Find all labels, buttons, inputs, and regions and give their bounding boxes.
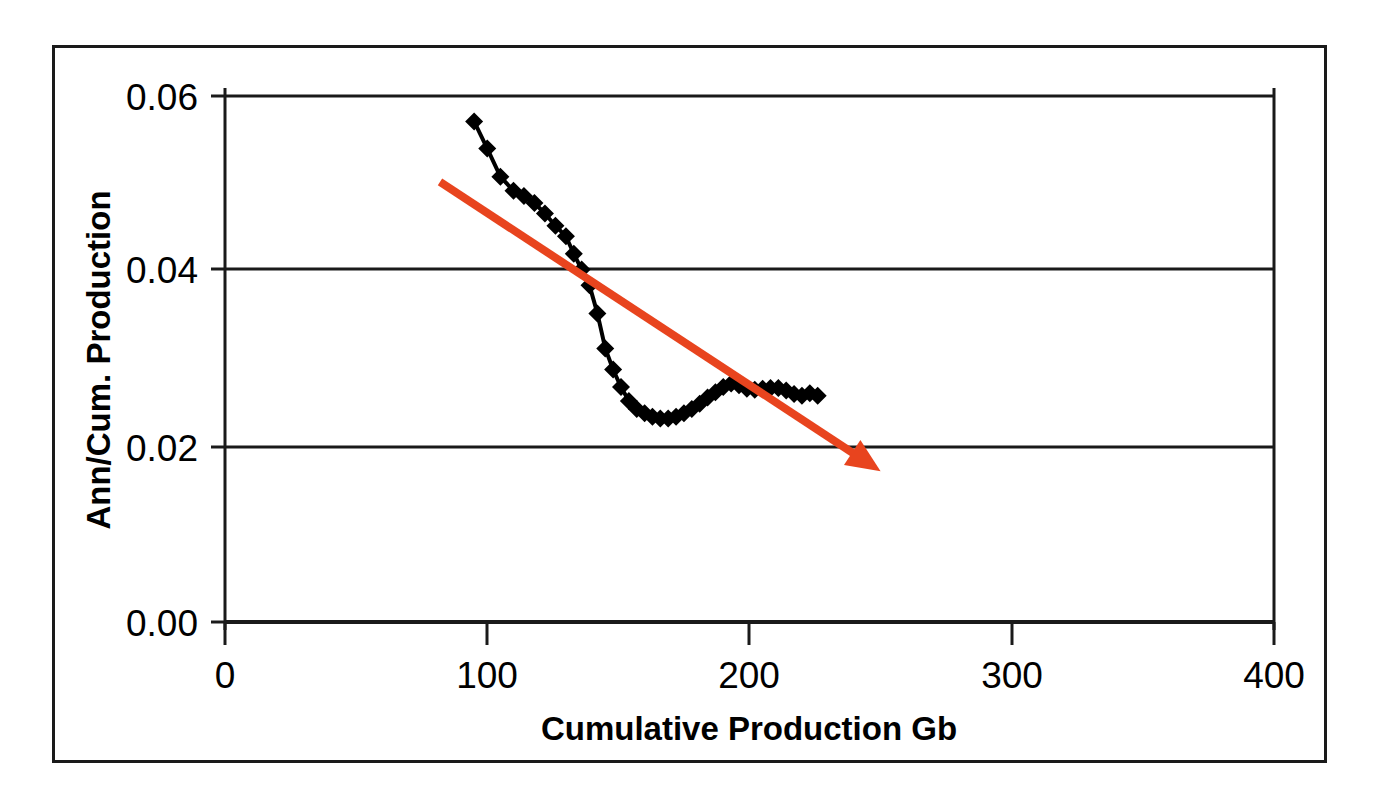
y-tick-label-1: 0.04 — [126, 250, 198, 291]
y-tick-label-0: 0.06 — [126, 77, 198, 118]
data-point-marker — [596, 339, 614, 357]
x-tick-label-4: 400 — [1243, 655, 1305, 696]
x-axis-title: Cumulative Production Gb — [541, 710, 957, 747]
x-tick-label-3: 300 — [981, 655, 1043, 696]
data-point-marker — [565, 245, 583, 263]
y-tick-label-3: 0.00 — [126, 603, 198, 644]
data-point-marker — [604, 361, 622, 379]
x-tick-label-1: 100 — [456, 655, 518, 696]
chart-canvas: 0.06 0.04 0.02 0.00 0 100 200 300 400 Cu… — [0, 0, 1373, 805]
data-point-marker — [465, 112, 483, 130]
data-point-marker — [612, 378, 630, 396]
x-tick-marks — [225, 622, 1274, 645]
data-point-marker — [588, 304, 606, 322]
y-tick-label-2: 0.02 — [126, 428, 198, 469]
x-tick-label-2: 200 — [718, 655, 780, 696]
trend-arrow-head — [844, 440, 881, 471]
x-tick-label-0: 0 — [215, 655, 236, 696]
data-point-marker — [478, 140, 496, 158]
y-tick-marks — [211, 96, 225, 622]
figure-container: 0.06 0.04 0.02 0.00 0 100 200 300 400 Cu… — [0, 0, 1373, 805]
trend-arrow — [440, 182, 881, 471]
y-axis-title: Ann/Cum. Production — [80, 190, 117, 529]
